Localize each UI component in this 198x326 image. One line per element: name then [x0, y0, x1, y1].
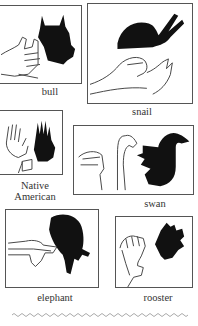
snail-illustration-icon	[88, 4, 192, 103]
rooster-illustration-icon	[116, 217, 192, 287]
caption-rooster: rooster	[138, 292, 178, 303]
caption-elephant: elephant	[30, 292, 80, 303]
elephant-illustration-icon	[6, 210, 98, 287]
figure-native-american	[0, 110, 63, 175]
caption-bull: bull	[30, 86, 70, 97]
caption-native-american: Native	[10, 180, 60, 191]
bull-illustration-icon	[0, 6, 81, 83]
native-american-illustration-icon	[0, 111, 62, 174]
caption-snail: snail	[122, 106, 162, 117]
swan-illustration-icon	[74, 126, 193, 194]
decorative-border-icon	[12, 312, 188, 317]
caption-native-american-line2: American	[4, 191, 66, 202]
figure-bull	[0, 5, 82, 84]
figure-swan	[73, 125, 194, 195]
figure-elephant	[5, 209, 99, 288]
caption-swan: swan	[140, 198, 170, 209]
figure-snail	[87, 3, 193, 104]
figure-rooster	[115, 216, 193, 288]
